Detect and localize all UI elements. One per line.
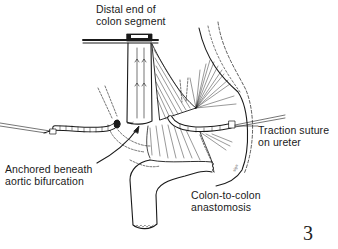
label-distal-end: Distal end of colon segment xyxy=(96,3,166,27)
colon-segment xyxy=(127,43,152,124)
label-anchored-line2: aortic bifurcation xyxy=(5,175,92,187)
clamp xyxy=(83,34,158,43)
label-anastomosis-line1: Colon-to-colon xyxy=(191,189,261,201)
left-ureter xyxy=(0,120,120,134)
label-anchored: Anchored beneath aortic bifurcation xyxy=(5,163,92,187)
label-anchored-line1: Anchored beneath xyxy=(5,163,92,175)
mesentery xyxy=(147,44,236,162)
label-traction-suture: Traction suture on ureter xyxy=(258,124,329,148)
label-traction-suture-line1: Traction suture xyxy=(258,124,329,136)
label-anastomosis-line2: anastomosis xyxy=(191,201,261,213)
label-distal-end-line1: Distal end of xyxy=(96,3,166,15)
label-anastomosis: Colon-to-colon anastomosis xyxy=(191,189,261,213)
label-traction-suture-line2: on ureter xyxy=(258,136,329,148)
artist-signature: sign xyxy=(231,164,239,173)
label-distal-end-line2: colon segment xyxy=(96,15,166,27)
figure-number: 3 xyxy=(303,222,313,245)
